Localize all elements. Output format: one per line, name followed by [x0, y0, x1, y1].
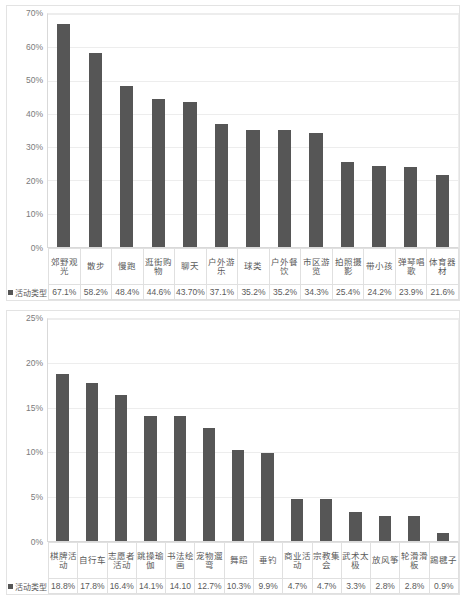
bar[interactable]: [57, 24, 70, 247]
bar-slot: [426, 14, 458, 247]
bar[interactable]: [341, 162, 354, 247]
bar[interactable]: [152, 99, 165, 247]
y-axis-tick: 0%: [31, 538, 43, 547]
value-label: 3.3%: [341, 578, 370, 594]
bar[interactable]: [408, 516, 420, 541]
bar[interactable]: [232, 450, 244, 541]
bar[interactable]: [89, 53, 102, 247]
bar-slot: [237, 14, 269, 247]
y-axis-tick: 0%: [31, 244, 43, 253]
bar[interactable]: [309, 133, 322, 247]
bar[interactable]: [56, 374, 68, 541]
y-axis-tick: 15%: [26, 403, 43, 412]
category-label: 舞蹈: [224, 542, 253, 578]
value-label: 43.70%: [174, 284, 206, 300]
bar[interactable]: [379, 516, 391, 541]
category-label: 书法绘画: [165, 542, 194, 578]
bar[interactable]: [261, 453, 273, 541]
bar[interactable]: [404, 167, 417, 247]
category-label: 球类: [237, 248, 269, 284]
bar-slot: [395, 14, 427, 247]
category-row-2: 棋牌活动自行车志愿者活动跳操瑜伽书法绘画宠物遛弯舞蹈垂钓商业活动宗教集会武术太极…: [7, 542, 459, 578]
bar-slot: [429, 319, 458, 541]
bar[interactable]: [291, 499, 303, 541]
y-axis-tick: 50%: [26, 76, 43, 85]
value-label: 21.6%: [426, 284, 459, 300]
bar[interactable]: [203, 428, 215, 541]
value-label: 16.4%: [107, 578, 136, 594]
value-label: 0.9%: [429, 578, 459, 594]
bar-slot: [332, 14, 364, 247]
chart-block-2: 0%5%10%15%20%25% 棋牌活动自行车志愿者活动跳操瑜伽书法绘画宠物遛…: [6, 310, 460, 595]
value-label: 67.1%: [48, 284, 80, 300]
value-label: 24.2%: [363, 284, 395, 300]
y-axis-tick: 40%: [26, 109, 43, 118]
bar[interactable]: [120, 86, 133, 247]
plot-area-2: 0%5%10%15%20%25%: [7, 311, 459, 542]
category-label: 郊野观光: [48, 248, 80, 284]
legend-spacer-2: [7, 542, 48, 578]
category-label: 跳操瑜伽: [136, 542, 165, 578]
bar[interactable]: [278, 130, 291, 247]
value-label: 35.2%: [269, 284, 301, 300]
bar-slot: [224, 319, 253, 541]
value-label: 12.7%: [194, 578, 223, 594]
bar[interactable]: [215, 124, 228, 247]
bar-slot: [194, 319, 223, 541]
category-label: 自行车: [77, 542, 106, 578]
bar[interactable]: [86, 383, 98, 541]
value-row-1: 活动类型 67.1%58.2%48.4%44.6%43.70%37.1%35.2…: [7, 284, 459, 300]
value-label: 17.8%: [77, 578, 106, 594]
bar-slot: [165, 319, 194, 541]
bar-slot: [48, 319, 77, 541]
y-axis-tick: 70%: [26, 9, 43, 18]
bar-slot: [253, 319, 282, 541]
plot-canvas-1: [47, 13, 459, 248]
bar-slot: [143, 14, 175, 247]
bar[interactable]: [349, 512, 361, 541]
bar[interactable]: [320, 499, 332, 541]
y-axis-tick: 30%: [26, 143, 43, 152]
category-label: 武术太极: [341, 542, 370, 578]
y-axis-1: 0%10%20%30%40%50%60%70%: [7, 13, 47, 248]
y-axis-tick: 20%: [26, 359, 43, 368]
plot-canvas-2: [47, 318, 459, 542]
bar[interactable]: [183, 102, 196, 247]
value-label: 23.9%: [395, 284, 427, 300]
bar-slot: [174, 14, 206, 247]
y-axis-tick: 10%: [26, 448, 43, 457]
value-label: 48.4%: [111, 284, 143, 300]
legend-label-1: 活动类型: [15, 287, 47, 298]
value-label: 25.4%: [332, 284, 364, 300]
bar-slot: [77, 319, 106, 541]
value-label: 9.9%: [253, 578, 282, 594]
category-label: 体育器材: [426, 248, 459, 284]
bar[interactable]: [437, 533, 449, 541]
bar[interactable]: [115, 395, 127, 541]
category-label: 商业活动: [282, 542, 311, 578]
category-label: 宠物遛弯: [194, 542, 223, 578]
category-label: 市区游览: [300, 248, 332, 284]
bar-slot: [399, 319, 428, 541]
bar[interactable]: [144, 416, 156, 541]
value-label: 58.2%: [80, 284, 112, 300]
bar[interactable]: [372, 166, 385, 247]
bar-slot: [107, 319, 136, 541]
category-label: 放风筝: [370, 542, 399, 578]
category-label: 志愿者活动: [107, 542, 136, 578]
category-row-1: 郊野观光散步慢跑逛街购物聊天户外游乐球类户外餐饮市区游览拍照摄影带小孩弹琴唱歌体…: [7, 248, 459, 284]
bar-slot: [136, 319, 165, 541]
category-label: 带小孩: [363, 248, 395, 284]
bar-slot: [363, 14, 395, 247]
bar-slot: [370, 319, 399, 541]
data-table-1: 郊野观光散步慢跑逛街购物聊天户外游乐球类户外餐饮市区游览拍照摄影带小孩弹琴唱歌体…: [7, 248, 459, 300]
bar[interactable]: [246, 130, 259, 247]
y-axis-2: 0%5%10%15%20%25%: [7, 318, 47, 542]
bar[interactable]: [436, 175, 449, 247]
category-label: 弹琴唱歌: [395, 248, 427, 284]
bar[interactable]: [174, 416, 186, 541]
bar-slot: [111, 14, 143, 247]
legend-swatch-icon: [8, 290, 13, 295]
category-label: 垂钓: [253, 542, 282, 578]
value-label: 37.1%: [206, 284, 238, 300]
